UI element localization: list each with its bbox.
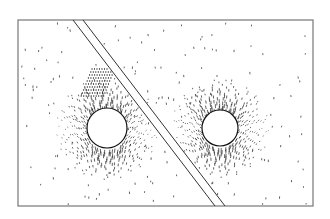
bodies	[87, 108, 238, 148]
plot-frame	[18, 20, 313, 206]
left-body	[87, 108, 127, 148]
vector-field	[22, 22, 307, 205]
vector-field-figure	[0, 0, 330, 219]
right-body	[202, 110, 238, 146]
